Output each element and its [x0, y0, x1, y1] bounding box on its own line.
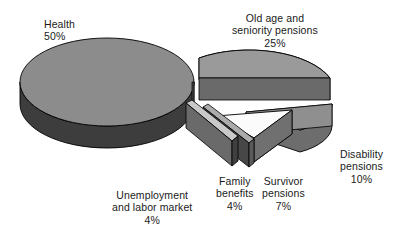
label-oldage-line2: seniority pensions [232, 24, 318, 36]
label-disability-value: 10% [340, 173, 383, 185]
slice-old-age-top [199, 50, 330, 78]
label-family-value: 4% [216, 200, 254, 212]
slice-label-unemployment: Unemployment and labor market 4% [112, 189, 192, 226]
label-family-line1: Family [216, 175, 254, 187]
slice-label-old-age-pensions: Old age and seniority pensions 25% [232, 12, 318, 49]
slice-label-survivor-pensions: Survivor pensions 7% [262, 175, 305, 212]
pie-chart-figure: Health 50% Old age and seniority pension… [0, 0, 406, 234]
slice-label-health: Health 50% [44, 18, 75, 43]
slice-health-top [20, 38, 194, 126]
label-disability-line2: pensions [340, 160, 383, 172]
label-health-value: 50% [44, 30, 75, 42]
slice-old-age-pensions [199, 50, 330, 100]
label-family-line2: benefits [216, 187, 254, 199]
label-oldage-value: 25% [232, 37, 318, 49]
slice-family-right-face [249, 139, 254, 167]
label-survivor-line2: pensions [262, 187, 305, 199]
label-health-line1: Health [44, 18, 75, 30]
slice-health [20, 38, 194, 148]
label-survivor-value: 7% [262, 200, 305, 212]
slice-label-disability-pensions: Disability pensions 10% [340, 148, 383, 185]
slice-label-family-benefits: Family benefits 4% [216, 175, 254, 212]
label-unemployment-value: 4% [112, 214, 192, 226]
label-unemployment-line1: Unemployment [112, 189, 192, 201]
slice-unemployment-right-face [232, 136, 238, 166]
label-unemployment-line2: and labor market [112, 201, 192, 213]
label-oldage-line1: Old age and [232, 12, 318, 24]
label-disability-line1: Disability [340, 148, 383, 160]
slice-old-age-inner-face [199, 78, 330, 100]
label-survivor-line1: Survivor [262, 175, 305, 187]
